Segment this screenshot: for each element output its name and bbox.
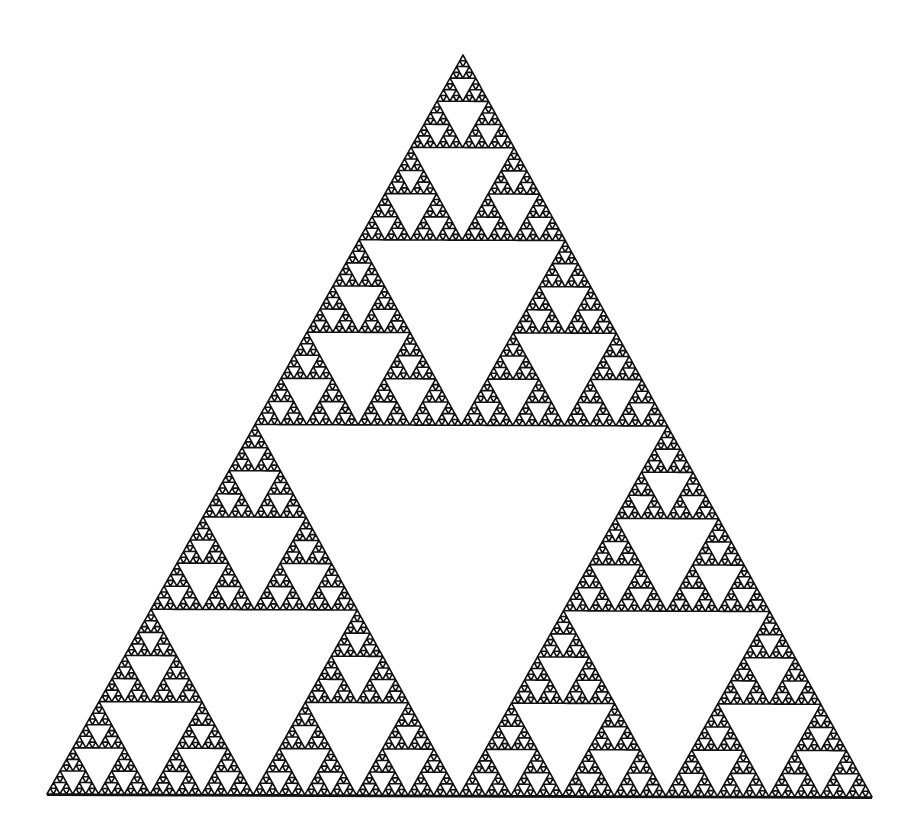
fractal-path <box>47 55 872 797</box>
sierpinski-triangle <box>0 0 913 838</box>
